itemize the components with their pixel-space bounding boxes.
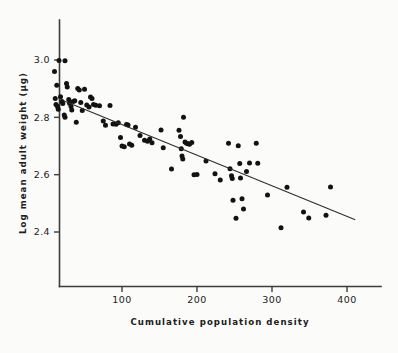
scatter-point — [178, 134, 183, 139]
scatter-point — [301, 209, 306, 214]
scatter-point — [161, 145, 166, 150]
scatter-point — [230, 176, 235, 181]
scatter-point — [118, 135, 123, 140]
y-tick-label: 2.4 — [34, 226, 50, 237]
scatter-point — [108, 103, 113, 108]
scatter-point — [74, 120, 79, 125]
scatter-point — [52, 69, 57, 74]
scatter-point — [238, 176, 243, 181]
scatter-point — [159, 127, 164, 132]
scatter-point — [247, 160, 252, 165]
scatter-point — [195, 172, 200, 177]
scatter-point — [254, 141, 259, 146]
y-axis-title: Log mean adult weight (µg) — [18, 72, 28, 234]
scatter-point — [72, 98, 77, 103]
scatter-point — [241, 207, 246, 212]
scatter-point — [218, 178, 223, 183]
scatter-point — [90, 96, 95, 101]
scatter-point — [231, 198, 236, 203]
scatter-point — [65, 84, 70, 89]
plot-canvas: 2.42.62.83.0 100200300400 Cumulative pop… — [0, 0, 398, 353]
scatter-point — [97, 103, 102, 108]
scatter-point — [244, 169, 249, 174]
y-tick-label: 3.0 — [34, 54, 50, 65]
scatter-point — [82, 87, 87, 92]
x-tick-label: 200 — [187, 294, 206, 305]
scatter-point — [87, 105, 92, 110]
scatter-point — [328, 184, 333, 189]
scatter-point — [69, 107, 74, 112]
scatter-point — [58, 94, 63, 99]
scatter-point — [53, 96, 58, 101]
scatter-point — [279, 225, 284, 230]
scatter-point — [324, 213, 329, 218]
scatter-point — [234, 216, 239, 221]
x-tick-label: 400 — [337, 294, 356, 305]
x-tick-label: 300 — [262, 294, 281, 305]
scatter-point — [56, 107, 61, 112]
scatter-point — [63, 115, 68, 120]
scatter-point — [60, 101, 65, 106]
scatter-point — [213, 171, 218, 176]
scatter-point — [240, 196, 245, 201]
scatter-point — [181, 115, 186, 120]
scatter-point — [177, 128, 182, 133]
scatter-point — [138, 133, 143, 138]
scatter-point — [150, 140, 155, 145]
axes-group — [60, 20, 382, 287]
scatter-point — [103, 123, 108, 128]
scatter-point — [77, 88, 82, 93]
scatter-point — [78, 100, 83, 105]
y-axis-ticks: 2.42.62.83.0 — [34, 54, 60, 237]
x-tick-label: 100 — [112, 294, 131, 305]
scatter-point — [63, 58, 68, 63]
regression-trend-line — [64, 101, 356, 220]
data-points-layer — [52, 58, 333, 230]
scatter-point — [255, 161, 260, 166]
y-tick-label: 2.6 — [34, 169, 50, 180]
scatter-point — [306, 215, 311, 220]
scatter-point — [189, 140, 194, 145]
scatter-point — [236, 143, 241, 148]
scatter-point — [169, 166, 174, 171]
scatter-point — [265, 193, 270, 198]
x-axis-title: Cumulative population density — [130, 317, 309, 327]
scatter-point — [57, 58, 62, 63]
y-tick-label: 2.8 — [34, 112, 50, 123]
scatter-point — [237, 161, 242, 166]
scatter-point — [54, 83, 59, 88]
scatter-point — [122, 144, 127, 149]
x-axis-ticks: 100200300400 — [112, 287, 356, 306]
scatter-point — [226, 141, 231, 146]
scatter-point — [101, 119, 106, 124]
scatter-plot-figure: 2.42.62.83.0 100200300400 Cumulative pop… — [0, 0, 398, 353]
scatter-point — [285, 185, 290, 190]
scatter-point — [129, 143, 134, 148]
scatter-point — [180, 156, 185, 161]
